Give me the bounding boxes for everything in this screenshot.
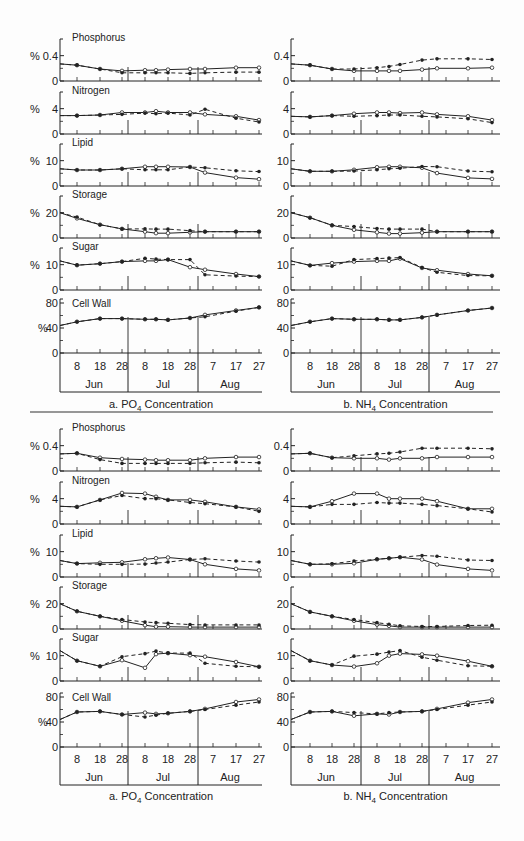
filled-marker-icon	[75, 609, 79, 613]
series-dashed-line	[291, 556, 492, 565]
date-label: 18	[94, 753, 106, 765]
open-marker-icon	[143, 666, 147, 670]
open-marker-icon	[387, 497, 391, 501]
filled-marker-icon	[234, 116, 238, 120]
y-tick-label: 0	[52, 675, 58, 687]
open-marker-icon	[466, 455, 470, 459]
subplot-title: Nitrogen	[72, 475, 110, 486]
filled-marker-icon	[420, 58, 424, 62]
y-axis-label: %	[38, 322, 48, 334]
filled-marker-icon	[188, 558, 192, 562]
filled-marker-icon	[257, 665, 261, 669]
y-tick-label: 4	[52, 103, 58, 115]
filled-marker-icon	[375, 66, 379, 70]
filled-marker-icon	[375, 621, 379, 625]
subplot-title: Storage	[72, 580, 107, 591]
filled-marker-icon	[203, 708, 207, 712]
filled-marker-icon	[490, 274, 494, 278]
filled-marker-icon	[375, 712, 379, 716]
x-axis-date-labels: 818288182871727	[307, 360, 498, 372]
y-tick-label: 0	[283, 571, 289, 583]
chart-panels: 00.4%Phosphorus04%Nitrogen010%Lipid020%S…	[30, 32, 500, 805]
series-solid-line	[291, 494, 492, 509]
filled-marker-icon	[398, 318, 402, 322]
open-marker-icon	[398, 69, 402, 73]
month-label: Jul	[156, 771, 170, 783]
y-tick-label: 0	[52, 623, 58, 635]
filled-marker-icon	[154, 257, 158, 261]
y-tick-label: 20	[277, 598, 289, 610]
date-label: 18	[94, 360, 106, 372]
subplot-phosphorus: 00.4	[274, 39, 500, 87]
open-marker-icon	[352, 492, 356, 496]
filled-marker-icon	[420, 165, 424, 169]
open-marker-icon	[420, 231, 424, 235]
open-marker-icon	[387, 69, 391, 73]
series-dashed-line	[291, 213, 492, 232]
open-marker-icon	[188, 458, 192, 462]
subplot-nitrogen: 04	[283, 92, 500, 140]
x-axis-date-labels: 818288182871727	[307, 753, 498, 765]
series-dashed-line	[291, 651, 492, 667]
filled-marker-icon	[75, 263, 79, 267]
filled-marker-icon	[352, 225, 356, 229]
y-axis-label: %	[30, 155, 40, 167]
month-label: Aug	[220, 378, 240, 390]
date-label: 17	[230, 753, 242, 765]
open-marker-icon	[166, 556, 170, 560]
open-marker-icon	[143, 492, 147, 496]
filled-marker-icon	[257, 461, 261, 465]
filled-marker-icon	[143, 652, 147, 656]
y-tick-label: 0	[52, 128, 58, 140]
filled-marker-icon	[234, 703, 238, 707]
x-axis-date-labels: 818288182871727	[74, 753, 265, 765]
filled-marker-icon	[387, 113, 391, 117]
filled-marker-icon	[188, 623, 192, 627]
filled-marker-icon	[420, 266, 424, 270]
date-label: 17	[462, 753, 474, 765]
filled-marker-icon	[143, 71, 147, 75]
filled-marker-icon	[154, 713, 158, 717]
filled-marker-icon	[188, 72, 192, 76]
filled-marker-icon	[166, 498, 170, 502]
filled-marker-icon	[75, 451, 79, 455]
open-marker-icon	[375, 492, 379, 496]
filled-marker-icon	[203, 71, 207, 75]
filled-marker-icon	[308, 320, 312, 324]
filled-marker-icon	[352, 114, 356, 118]
open-marker-icon	[490, 177, 494, 181]
open-marker-icon	[490, 569, 494, 573]
filled-marker-icon	[398, 227, 402, 231]
subplot-lipid: 010	[277, 535, 500, 583]
y-axis-label: %	[30, 546, 40, 558]
filled-marker-icon	[420, 655, 424, 659]
filled-marker-icon	[154, 621, 158, 625]
filled-marker-icon	[143, 715, 147, 719]
filled-marker-icon	[352, 67, 356, 71]
open-marker-icon	[234, 660, 238, 664]
filled-marker-icon	[387, 451, 391, 455]
filled-marker-icon	[352, 559, 356, 563]
filled-marker-icon	[143, 317, 147, 321]
date-label: 18	[394, 360, 406, 372]
filled-marker-icon	[120, 113, 124, 117]
filled-marker-icon	[398, 256, 402, 260]
y-tick-label: 0	[283, 75, 289, 87]
open-marker-icon	[375, 231, 379, 235]
y-tick-label: 0	[283, 347, 289, 359]
filled-marker-icon	[375, 501, 379, 505]
filled-marker-icon	[120, 227, 124, 231]
y-tick-label: 0.4	[274, 440, 289, 452]
filled-marker-icon	[387, 622, 391, 626]
filled-marker-icon	[308, 264, 312, 268]
filled-marker-icon	[308, 710, 312, 714]
y-tick-label: 0	[283, 284, 289, 296]
filled-marker-icon	[375, 257, 379, 261]
open-marker-icon	[203, 171, 207, 175]
filled-marker-icon	[166, 227, 170, 231]
filled-marker-icon	[420, 710, 424, 714]
open-marker-icon	[398, 457, 402, 461]
subplot-title: Lipid	[72, 528, 93, 539]
open-marker-icon	[143, 623, 147, 627]
filled-marker-icon	[435, 230, 439, 234]
